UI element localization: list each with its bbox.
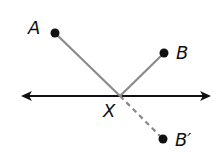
point-b	[160, 49, 169, 58]
label-b-prime: B′	[175, 129, 191, 150]
reflection-diagram: A B X B′	[0, 0, 220, 152]
segment-ax	[55, 33, 120, 96]
label-b: B	[176, 42, 188, 63]
label-a: A	[27, 17, 40, 38]
segment-xb	[120, 53, 164, 96]
point-b-prime	[159, 135, 168, 144]
label-x: X	[102, 100, 116, 121]
segment-xb-prime-dashed	[120, 96, 163, 139]
point-a	[51, 29, 60, 38]
